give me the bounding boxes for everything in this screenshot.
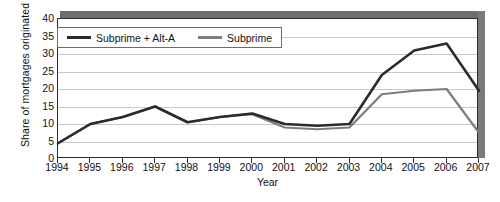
legend-item-subprime: Subprime: [198, 32, 272, 44]
x-axis-tick-labels: 1994199519961997199819992000200120022003…: [57, 161, 478, 177]
legend-label-subprime: Subprime: [227, 32, 272, 44]
y-tick-label: 5: [30, 136, 54, 147]
chart-legend: Subprime + Alt-A Subprime: [57, 27, 282, 48]
legend-swatch-subprime: [198, 36, 222, 39]
plot-shadow-top: [60, 11, 481, 18]
y-tick-label: 30: [30, 48, 54, 59]
y-tick-label: 25: [30, 66, 54, 77]
y-tick-label: 40: [30, 13, 54, 24]
x-tick-label: 2007: [458, 161, 498, 173]
x-axis-title: Year: [57, 176, 478, 188]
y-tick-label: 15: [30, 101, 54, 112]
legend-label-subprime-alt-a: Subprime + Alt-A: [96, 32, 175, 44]
y-tick-label: 35: [30, 31, 54, 42]
y-tick-label: 10: [30, 118, 54, 129]
chart-container: Share of mortgages originated (percent) …: [0, 0, 500, 202]
y-tick-label: 20: [30, 83, 54, 94]
legend-swatch-subprime-alt-a: [67, 36, 91, 39]
series-line-subprime-alt-a: [58, 44, 479, 144]
legend-item-subprime-alt-a: Subprime + Alt-A: [67, 32, 175, 44]
plot-shadow-right: [478, 11, 485, 158]
